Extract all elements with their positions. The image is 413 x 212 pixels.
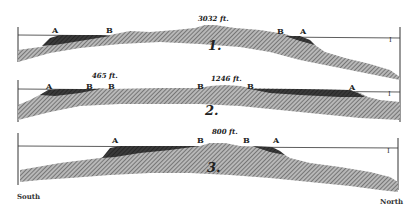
section-2-point-b-2: B: [108, 82, 115, 90]
section-3-point-b-south: B: [197, 136, 204, 144]
geological-sections-figure: A B 3032 ft. B A 1. I A B 465 ft. B B 12…: [0, 0, 413, 212]
section-3-point-a-south: A: [112, 136, 118, 144]
section-1-point-b-south: B: [106, 26, 113, 34]
section-1-point-b-north: B: [277, 27, 284, 35]
section-3-elevation-label: 800 ft.: [212, 128, 238, 135]
section-3-number: 3.: [207, 161, 221, 174]
section-1-elevation-label: 3032 ft.: [198, 15, 229, 22]
section-1-point-a-north: A: [300, 27, 306, 35]
section-3-end-marker: I: [387, 148, 390, 155]
section-2-end-marker: I: [388, 91, 391, 98]
section-2-point-b-3: B: [197, 82, 204, 90]
section-2-point-b-1: B: [86, 82, 93, 90]
section-2-elevation-label-a: 465 ft.: [92, 72, 118, 79]
section-1-number: 1.: [208, 39, 222, 52]
section-2-point-a-north: A: [349, 83, 355, 91]
section-2-point-a-south: A: [46, 82, 52, 90]
section-2-number: 2.: [205, 104, 219, 117]
section-2-point-b-4: B: [247, 82, 254, 90]
direction-label-north: North: [380, 198, 403, 205]
section-3-point-b-north: B: [243, 136, 250, 144]
section-2-elevation-label-b: 1246 ft.: [211, 75, 242, 82]
section-3-point-a-north: A: [273, 136, 279, 144]
section-1-end-marker: I: [389, 37, 392, 44]
section-1-point-a-south: A: [52, 26, 58, 34]
direction-label-south: South: [17, 193, 40, 200]
